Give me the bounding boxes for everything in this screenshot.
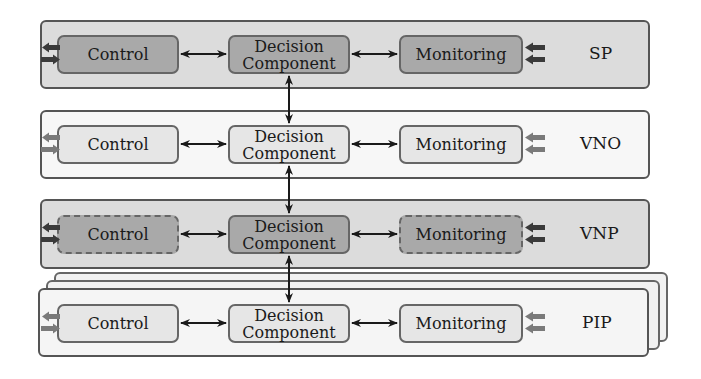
control-io-arrows (41, 43, 60, 334)
arrows-overlay (0, 0, 701, 379)
vno-control-io-icon (41, 133, 60, 155)
sp-monitoring-input-icon (525, 43, 545, 65)
pip-monitoring-input-icon (525, 312, 545, 334)
vnp-monitoring-input-icon (525, 223, 545, 245)
vnp-control-io-icon (41, 223, 60, 245)
vno-monitoring-input-icon (525, 133, 545, 155)
sp-control-io-icon (41, 43, 60, 65)
pip-control-io-icon (41, 312, 60, 334)
monitoring-input-arrows (525, 43, 545, 334)
